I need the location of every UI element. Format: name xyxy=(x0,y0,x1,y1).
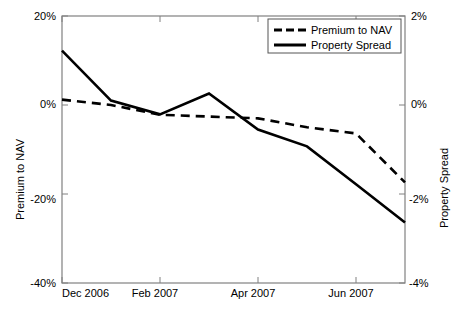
xtick-3: Jun 2007 xyxy=(306,287,396,299)
y-axis-label-right: Property Spread xyxy=(438,148,450,228)
ytick-right-3: -4% xyxy=(409,277,429,289)
y-axis-label-left: Premium to NAV xyxy=(14,139,26,220)
data-series xyxy=(62,51,405,223)
chart-figure: Premium to NAV Property Spread 20% 0% -2… xyxy=(0,0,451,319)
ytick-left-1: 0% xyxy=(20,98,56,110)
chart-legend[interactable]: Premium to NAV Property Spread xyxy=(268,19,401,53)
xtick-1: Feb 2007 xyxy=(110,287,200,299)
legend-label-property-spread: Property Spread xyxy=(311,39,391,51)
ytick-left-3: -40% xyxy=(16,277,56,289)
ytick-right-2: -2% xyxy=(409,193,429,205)
plot-frame xyxy=(62,16,405,283)
ytick-right-0: 2% xyxy=(411,10,427,22)
plot-area: Premium to NAV Property Spread xyxy=(0,0,451,319)
series-line-property-spread xyxy=(62,51,405,223)
axis-ticks xyxy=(62,16,405,283)
xtick-2: Apr 2007 xyxy=(208,287,298,299)
ytick-right-1: 0% xyxy=(411,98,427,110)
ytick-left-0: 20% xyxy=(20,10,56,22)
legend-label-premium-to-nav: Premium to NAV xyxy=(311,24,393,36)
